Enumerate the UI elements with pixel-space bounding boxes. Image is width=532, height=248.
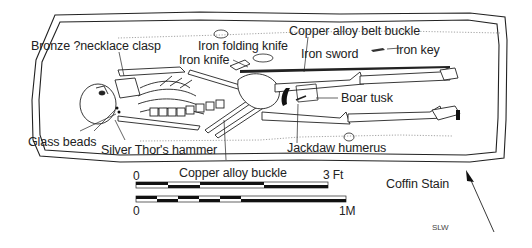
legend-coffin-stain: Coffin Stain <box>386 178 449 191</box>
scale-feet-end: 3 Ft <box>323 169 343 181</box>
iron-key <box>371 48 385 52</box>
scale-metric-start: 0 <box>133 205 140 217</box>
scale-feet-start: 0 <box>133 170 140 182</box>
scale-bar-metric <box>136 196 346 202</box>
iron-sword <box>240 66 450 73</box>
north-arrow-icon <box>466 170 494 232</box>
scale-bar-feet <box>136 182 328 188</box>
label-iron-folding-knife: Iron folding knife <box>198 40 288 53</box>
grave-drawing <box>0 0 532 248</box>
label-iron-knife: Iron knife <box>179 54 229 67</box>
signature: SLW <box>432 224 448 232</box>
label-copper-buckle: Copper alloy buckle <box>179 167 287 180</box>
label-jackdaw-humerus: Jackdaw humerus <box>287 142 386 155</box>
label-iron-sword: Iron sword <box>301 48 358 61</box>
label-thors-hammer: Silver Thor's hammer <box>101 144 217 157</box>
label-copper-belt-buckle: Copper alloy belt buckle <box>289 25 420 38</box>
label-bronze-clasp: Bronze ?necklace clasp <box>31 40 161 53</box>
scale-metric-end: 1M <box>339 205 355 217</box>
label-glass-beads: Glass beads <box>28 136 96 149</box>
label-boar-tusk: Boar tusk <box>341 92 393 105</box>
grave-plan: Bronze ?necklace clasp Iron folding knif… <box>0 0 532 248</box>
label-iron-key: Iron key <box>396 44 440 57</box>
